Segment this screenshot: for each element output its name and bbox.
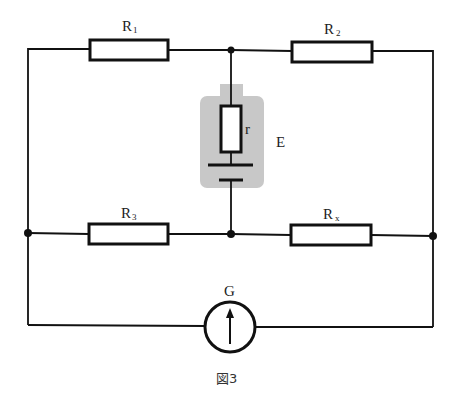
label-rx: R [323, 206, 333, 222]
label-r3-sub: 3 [132, 212, 137, 222]
label-r1-sub: 1 [133, 25, 138, 35]
label-g: G [224, 283, 235, 299]
label-e: E [276, 134, 285, 150]
label-r1: R [122, 18, 132, 34]
label-r2: R [324, 21, 334, 37]
junction-right [429, 232, 437, 240]
resistor-r3: R 3 [89, 205, 168, 244]
junction-center [227, 230, 235, 238]
circuit-diagram: R 1 R 2 R 3 R x r E G 図3 [0, 0, 460, 403]
label-r-internal: r [245, 121, 250, 137]
label-r3: R [121, 205, 131, 221]
figure-caption: 図3 [216, 371, 237, 386]
resistor-rx: R x [291, 206, 371, 245]
label-r2-sub: 2 [336, 28, 341, 38]
junction-left [24, 229, 32, 237]
resistor-r2: R 2 [292, 21, 372, 62]
label-rx-sub: x [335, 213, 340, 223]
galvanometer: G [205, 283, 255, 352]
junction-top [228, 47, 235, 54]
resistor-r1: R 1 [90, 18, 168, 60]
